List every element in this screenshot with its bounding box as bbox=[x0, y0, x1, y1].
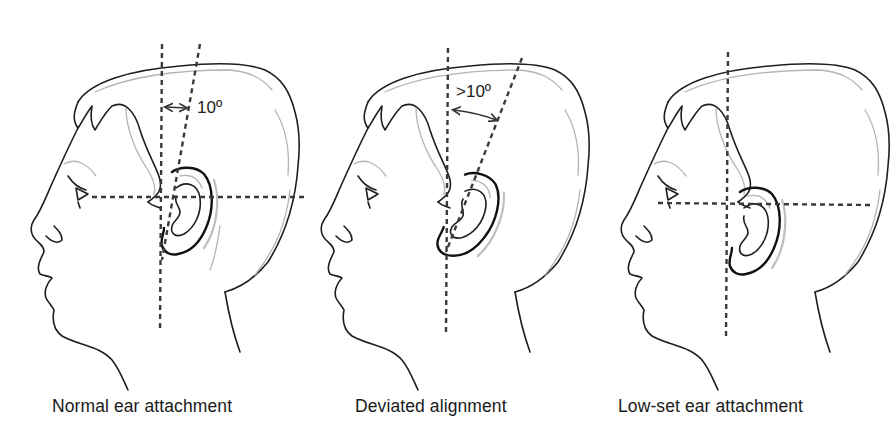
vertical-reference-line bbox=[446, 48, 448, 334]
caption-low-set: Low-set ear attachment bbox=[618, 396, 803, 417]
ear-attachment-diagram: 10º >10º Normal ear attachment bbox=[0, 0, 896, 438]
angle-arrow bbox=[166, 107, 186, 108]
caption-deviated: Deviated alignment bbox=[355, 396, 507, 417]
angle-label-normal: 10º bbox=[197, 98, 222, 117]
vertical-reference-line bbox=[726, 52, 728, 338]
panel-low-set-head bbox=[621, 52, 889, 390]
ear-low-set bbox=[729, 188, 785, 275]
caption-normal: Normal ear attachment bbox=[52, 396, 232, 417]
panel-normal-head bbox=[31, 44, 306, 390]
horizontal-reference-line bbox=[658, 203, 872, 205]
angle-label-deviated: >10º bbox=[456, 82, 491, 101]
ear-normal bbox=[161, 168, 217, 255]
head-profile-low-set bbox=[621, 64, 889, 390]
head-profile-normal bbox=[31, 64, 299, 390]
ear-axis-line bbox=[162, 44, 200, 260]
illustration-canvas: 10º >10º bbox=[0, 0, 896, 438]
angle-arrow bbox=[454, 110, 496, 120]
